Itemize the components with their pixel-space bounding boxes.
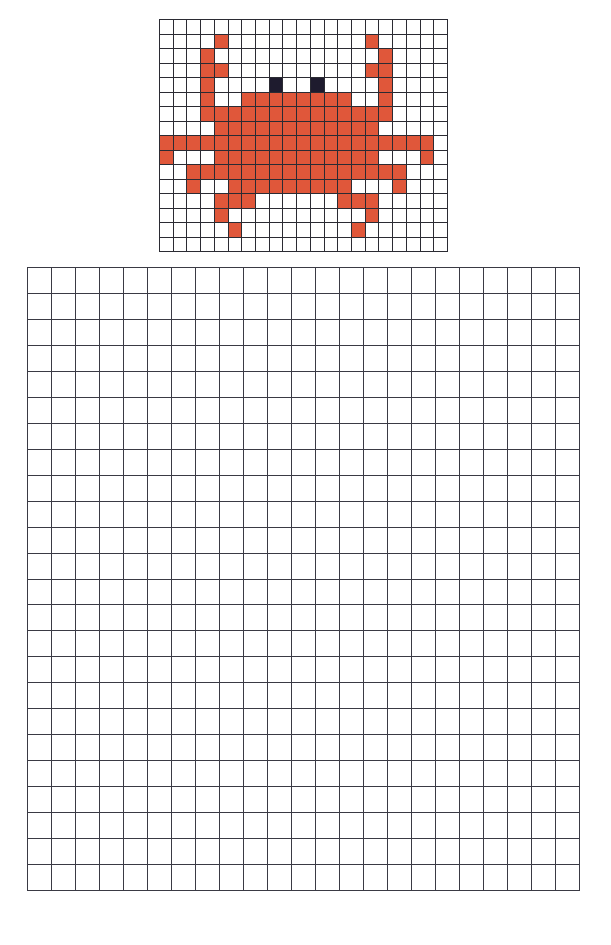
drawing-cell[interactable] xyxy=(556,554,580,580)
drawing-cell[interactable] xyxy=(28,735,52,761)
drawing-cell[interactable] xyxy=(556,528,580,554)
drawing-cell[interactable] xyxy=(484,683,508,709)
drawing-cell[interactable] xyxy=(556,683,580,709)
drawing-cell[interactable] xyxy=(292,735,316,761)
drawing-cell[interactable] xyxy=(532,424,556,450)
drawing-cell[interactable] xyxy=(508,502,532,528)
drawing-cell[interactable] xyxy=(340,268,364,294)
drawing-cell[interactable] xyxy=(244,424,268,450)
drawing-cell[interactable] xyxy=(316,398,340,424)
drawing-cell[interactable] xyxy=(220,657,244,683)
drawing-cell[interactable] xyxy=(556,839,580,865)
drawing-cell[interactable] xyxy=(412,502,436,528)
blank-drawing-grid[interactable] xyxy=(27,267,580,891)
drawing-cell[interactable] xyxy=(28,865,52,891)
drawing-cell[interactable] xyxy=(76,320,100,346)
drawing-cell[interactable] xyxy=(148,502,172,528)
drawing-cell[interactable] xyxy=(28,424,52,450)
drawing-cell[interactable] xyxy=(316,554,340,580)
drawing-cell[interactable] xyxy=(484,709,508,735)
drawing-cell[interactable] xyxy=(244,320,268,346)
drawing-cell[interactable] xyxy=(484,398,508,424)
drawing-cell[interactable] xyxy=(172,372,196,398)
drawing-cell[interactable] xyxy=(76,839,100,865)
drawing-cell[interactable] xyxy=(196,294,220,320)
drawing-cell[interactable] xyxy=(340,346,364,372)
drawing-cell[interactable] xyxy=(460,631,484,657)
drawing-cell[interactable] xyxy=(340,735,364,761)
drawing-cell[interactable] xyxy=(460,735,484,761)
drawing-cell[interactable] xyxy=(52,424,76,450)
drawing-cell[interactable] xyxy=(268,554,292,580)
drawing-cell[interactable] xyxy=(436,761,460,787)
drawing-cell[interactable] xyxy=(172,657,196,683)
drawing-cell[interactable] xyxy=(388,787,412,813)
drawing-cell[interactable] xyxy=(412,268,436,294)
drawing-cell[interactable] xyxy=(340,294,364,320)
drawing-cell[interactable] xyxy=(532,580,556,606)
drawing-cell[interactable] xyxy=(460,372,484,398)
drawing-cell[interactable] xyxy=(316,657,340,683)
drawing-cell[interactable] xyxy=(532,528,556,554)
drawing-cell[interactable] xyxy=(316,346,340,372)
drawing-cell[interactable] xyxy=(52,268,76,294)
drawing-cell[interactable] xyxy=(436,554,460,580)
drawing-cell[interactable] xyxy=(388,398,412,424)
drawing-cell[interactable] xyxy=(364,683,388,709)
drawing-cell[interactable] xyxy=(532,813,556,839)
drawing-cell[interactable] xyxy=(148,580,172,606)
drawing-cell[interactable] xyxy=(508,709,532,735)
drawing-cell[interactable] xyxy=(556,735,580,761)
drawing-cell[interactable] xyxy=(196,554,220,580)
drawing-cell[interactable] xyxy=(412,346,436,372)
drawing-cell[interactable] xyxy=(436,787,460,813)
drawing-cell[interactable] xyxy=(292,813,316,839)
drawing-cell[interactable] xyxy=(364,372,388,398)
drawing-cell[interactable] xyxy=(460,528,484,554)
drawing-cell[interactable] xyxy=(556,450,580,476)
drawing-cell[interactable] xyxy=(340,476,364,502)
drawing-cell[interactable] xyxy=(412,683,436,709)
drawing-cell[interactable] xyxy=(28,631,52,657)
drawing-cell[interactable] xyxy=(484,735,508,761)
drawing-cell[interactable] xyxy=(556,631,580,657)
drawing-cell[interactable] xyxy=(196,787,220,813)
drawing-cell[interactable] xyxy=(460,346,484,372)
drawing-cell[interactable] xyxy=(316,761,340,787)
drawing-cell[interactable] xyxy=(52,398,76,424)
drawing-cell[interactable] xyxy=(76,398,100,424)
drawing-cell[interactable] xyxy=(244,580,268,606)
drawing-cell[interactable] xyxy=(340,761,364,787)
drawing-cell[interactable] xyxy=(220,813,244,839)
drawing-cell[interactable] xyxy=(124,268,148,294)
drawing-cell[interactable] xyxy=(172,709,196,735)
drawing-cell[interactable] xyxy=(556,398,580,424)
drawing-cell[interactable] xyxy=(316,709,340,735)
drawing-cell[interactable] xyxy=(268,528,292,554)
drawing-cell[interactable] xyxy=(172,554,196,580)
drawing-cell[interactable] xyxy=(124,709,148,735)
drawing-cell[interactable] xyxy=(52,839,76,865)
drawing-cell[interactable] xyxy=(268,398,292,424)
drawing-cell[interactable] xyxy=(76,580,100,606)
drawing-cell[interactable] xyxy=(508,372,532,398)
drawing-cell[interactable] xyxy=(340,580,364,606)
drawing-cell[interactable] xyxy=(172,268,196,294)
drawing-cell[interactable] xyxy=(244,709,268,735)
drawing-cell[interactable] xyxy=(52,502,76,528)
drawing-cell[interactable] xyxy=(148,761,172,787)
drawing-cell[interactable] xyxy=(148,450,172,476)
drawing-cell[interactable] xyxy=(460,424,484,450)
drawing-cell[interactable] xyxy=(364,657,388,683)
drawing-cell[interactable] xyxy=(532,657,556,683)
drawing-cell[interactable] xyxy=(76,813,100,839)
drawing-cell[interactable] xyxy=(124,476,148,502)
drawing-cell[interactable] xyxy=(76,372,100,398)
drawing-cell[interactable] xyxy=(412,294,436,320)
drawing-cell[interactable] xyxy=(220,787,244,813)
drawing-cell[interactable] xyxy=(124,813,148,839)
drawing-cell[interactable] xyxy=(124,372,148,398)
drawing-cell[interactable] xyxy=(124,554,148,580)
drawing-cell[interactable] xyxy=(148,320,172,346)
drawing-cell[interactable] xyxy=(508,268,532,294)
